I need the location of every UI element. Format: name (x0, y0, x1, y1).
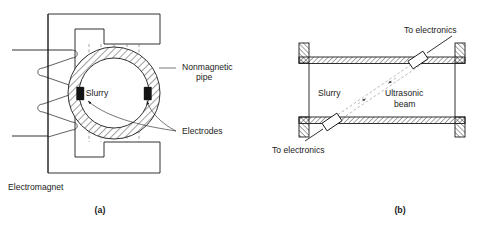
electromagnet-label: Electromagnet (8, 182, 64, 192)
ultrasonic-beam-label-line1: Ultrasonic (385, 88, 424, 98)
transducer-upper-lead (427, 36, 452, 53)
transducer-upper (408, 51, 428, 69)
nonmagnetic-pipe-label-line2: pipe (196, 72, 212, 82)
nonmagnetic-pipe-annulus (60, 39, 168, 147)
caption-a: (a) (95, 205, 106, 215)
electrode-right (144, 87, 152, 100)
ultrasonic-beam-label-line2: beam (394, 99, 416, 109)
electrodes-label: Electrodes (182, 126, 223, 136)
caption-b: (b) (394, 205, 405, 215)
slurry-label-b: Slurry (318, 88, 341, 98)
slurry-label-a: Slurry (86, 88, 109, 98)
panel-a-group: Slurry Nonmagnetic pipe Electrodes Elect… (8, 14, 233, 215)
figure-root: Slurry Nonmagnetic pipe Electrodes Elect… (0, 0, 484, 228)
electrode-left (77, 87, 85, 100)
nonmagnetic-pipe-label-line1: Nonmagnetic (182, 62, 233, 72)
transducer-lower (322, 113, 342, 131)
to-electronics-bottom-label: To electronics (272, 145, 325, 155)
figure-canvas: Slurry Nonmagnetic pipe Electrodes Elect… (0, 0, 484, 228)
panel-b-group: Slurry To electronics To electronics Ult… (272, 25, 465, 215)
to-electronics-top-label: To electronics (404, 25, 457, 35)
